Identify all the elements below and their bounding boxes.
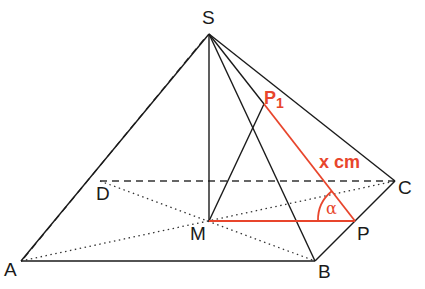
label-P: P — [357, 223, 370, 244]
label-C: C — [398, 177, 412, 198]
edge-SA — [21, 34, 209, 261]
label-B: B — [318, 261, 331, 282]
label-A: A — [4, 259, 17, 280]
edge-SB — [209, 34, 315, 261]
label-P1-main: P — [264, 88, 276, 108]
segment-MP1 — [209, 104, 264, 221]
label-length: x cm — [319, 152, 360, 172]
label-P1-sub: 1 — [276, 95, 284, 111]
label-D: D — [96, 183, 110, 204]
label-S: S — [202, 7, 215, 28]
pyramid-diagram: S A B C D M P P1 x cm α — [0, 0, 425, 289]
edge-SC — [209, 34, 395, 181]
visible-edges — [21, 34, 395, 261]
label-M: M — [190, 223, 206, 244]
label-angle: α — [326, 199, 337, 218]
